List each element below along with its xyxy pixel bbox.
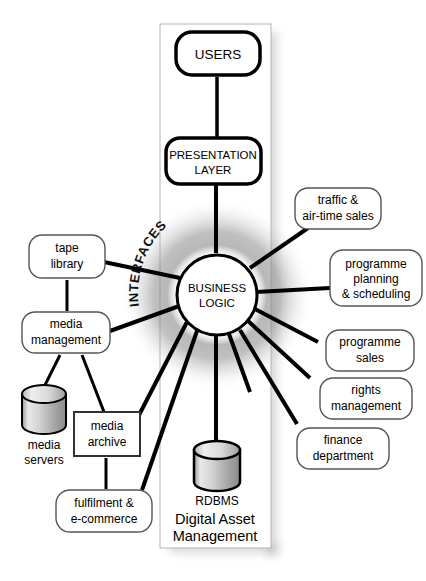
dam-panel-title-line-2: Management [173,528,258,544]
node-users[interactable]: USERS [176,32,260,75]
media-servers-cylinder-top [22,385,66,403]
node-media-servers[interactable]: media servers [22,385,66,467]
rdbms-cylinder-top [194,441,240,459]
node-fulfilment-label-2: e-commerce [71,512,138,526]
node-fulfilment-e-commerce[interactable]: fulfilment & e-commerce [56,490,152,532]
node-users-label: USERS [195,47,242,62]
node-finance-label-1: finance [324,433,363,447]
node-programme-planning-scheduling[interactable]: programme planning & scheduling [330,250,422,306]
node-fulfilment-label-1: fulfilment & [74,496,133,510]
node-business-logic-label-1: BUSINESS [188,282,246,294]
node-programme-sales-label-1: programme [339,335,401,349]
connector-mm-media-servers [45,355,60,385]
node-programme-sales-label-2: sales [356,351,384,365]
diagram-canvas: INTERFACES USERS PRESENTATION LAYER BUSI… [0,0,426,581]
node-programme-planning-label-1: programme [345,257,407,271]
node-business-logic[interactable]: BUSINESS LOGIC [177,255,257,335]
node-media-management-label-1: media [50,317,83,331]
node-presentation-layer[interactable]: PRESENTATION LAYER [166,138,261,184]
node-media-archive-label-2: archive [88,435,127,449]
node-traffic-label-1: traffic & [318,193,358,207]
node-media-management-label-2: management [31,333,102,347]
node-media-servers-label-1: media [28,438,61,452]
node-programme-sales[interactable]: programme sales [326,330,414,371]
node-traffic-label-2: air-time sales [302,209,373,223]
node-media-management[interactable]: media management [22,312,110,353]
node-traffic-air-time-sales[interactable]: traffic & air-time sales [295,188,381,229]
node-tape-library[interactable]: tape library [29,235,105,278]
node-rights-management[interactable]: rights management [320,378,412,419]
node-media-archive-label-1: media [91,419,124,433]
node-finance-label-2: department [313,449,374,463]
node-media-archive[interactable]: media archive [74,412,140,456]
node-rights-management-label-1: rights [351,383,380,397]
node-presentation-layer-label-1: PRESENTATION [169,149,257,161]
node-programme-planning-label-3: & scheduling [342,287,411,301]
node-business-logic-label-2: LOGIC [199,297,235,309]
node-rdbms[interactable]: RDBMS [194,441,240,508]
connector-mm-media-archive [82,355,104,412]
node-tape-library-label-1: tape [55,241,79,255]
node-tape-library-label-2: library [51,257,84,271]
node-media-servers-label-2: servers [24,453,63,467]
node-programme-planning-label-2: planning [353,272,398,286]
node-rdbms-label: RDBMS [195,494,238,508]
node-finance-department[interactable]: finance department [297,428,389,469]
node-rights-management-label-2: management [331,399,402,413]
node-presentation-layer-label-2: LAYER [195,164,232,176]
dam-panel-title-line-1: Digital Asset [175,511,255,527]
